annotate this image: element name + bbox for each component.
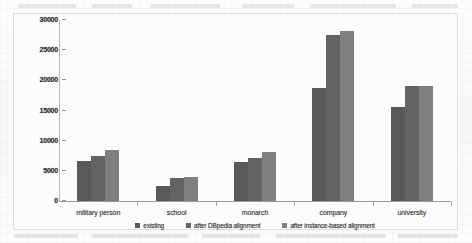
x-axis-tick-mark: [137, 202, 138, 206]
bar: [419, 86, 433, 201]
bar-group: [77, 20, 119, 201]
y-axis-tick-label: 30000: [40, 15, 58, 25]
bar: [312, 88, 326, 201]
bar: [234, 162, 248, 201]
legend-swatch-icon: [282, 223, 287, 228]
y-axis-tick-label: 5000: [43, 166, 58, 176]
x-axis-category-label: monarch: [216, 208, 294, 217]
legend-label: after instance-based alignment: [290, 221, 374, 230]
x-axis-category-label: university: [373, 208, 451, 217]
background-ghost-text: [276, 234, 386, 238]
x-axis-line: [59, 201, 451, 202]
y-axis-tick-label: 25000: [40, 45, 58, 55]
y-axis-tick-label: 15000: [40, 106, 58, 116]
background-ghost-text: [412, 4, 458, 8]
legend-item: after DBpedia alignment: [186, 221, 260, 230]
bar: [170, 178, 184, 201]
bar: [326, 35, 340, 201]
bar: [105, 150, 119, 201]
bar: [405, 86, 419, 201]
bar-group: [312, 20, 354, 201]
background-ghost-text: [14, 234, 78, 238]
chart-container: 300002500020000150001000050000 military …: [13, 13, 458, 230]
x-axis-tick-mark: [216, 202, 217, 206]
x-axis-tick-mark: [294, 202, 295, 206]
legend-label: after DBpedia alignment: [194, 221, 260, 230]
bar: [156, 186, 170, 201]
legend-swatch-icon: [135, 223, 140, 228]
bar: [91, 156, 105, 201]
legend-item: after instance-based alignment: [282, 221, 374, 230]
bar: [391, 107, 405, 201]
x-axis-tick-mark: [373, 202, 374, 206]
x-axis-tick-mark: [451, 202, 452, 206]
legend-item: existing: [135, 221, 164, 230]
background-ghost-text: [202, 234, 260, 238]
bar-group: [234, 20, 276, 201]
background-ghost-text: [18, 4, 76, 8]
background-ghost-text: [310, 4, 396, 8]
bar: [262, 152, 276, 201]
background-ghost-text: [92, 4, 132, 8]
legend-label: existing: [143, 221, 164, 230]
bar-group: [391, 20, 433, 201]
bar: [184, 177, 198, 201]
background-ghost-text: [398, 234, 458, 238]
bar-group: [156, 20, 198, 201]
x-axis-category-label: company: [294, 208, 372, 217]
y-axis-tick-label: 10000: [40, 136, 58, 146]
x-axis-category-label: school: [137, 208, 215, 217]
y-axis-tick-label: 0: [54, 196, 58, 206]
background-ghost-text: [242, 4, 294, 8]
bar: [248, 158, 262, 201]
background-ghost-text: [92, 234, 188, 238]
bar: [340, 31, 354, 201]
chart-legend: existingafter DBpedia alignmentafter ins…: [59, 221, 451, 230]
y-axis-tick-label: 20000: [40, 75, 58, 85]
plot-area: [59, 20, 451, 201]
background-ghost-text: [150, 4, 220, 8]
bar: [77, 161, 91, 201]
x-axis-category-label: military person: [59, 208, 137, 217]
legend-swatch-icon: [186, 223, 191, 228]
